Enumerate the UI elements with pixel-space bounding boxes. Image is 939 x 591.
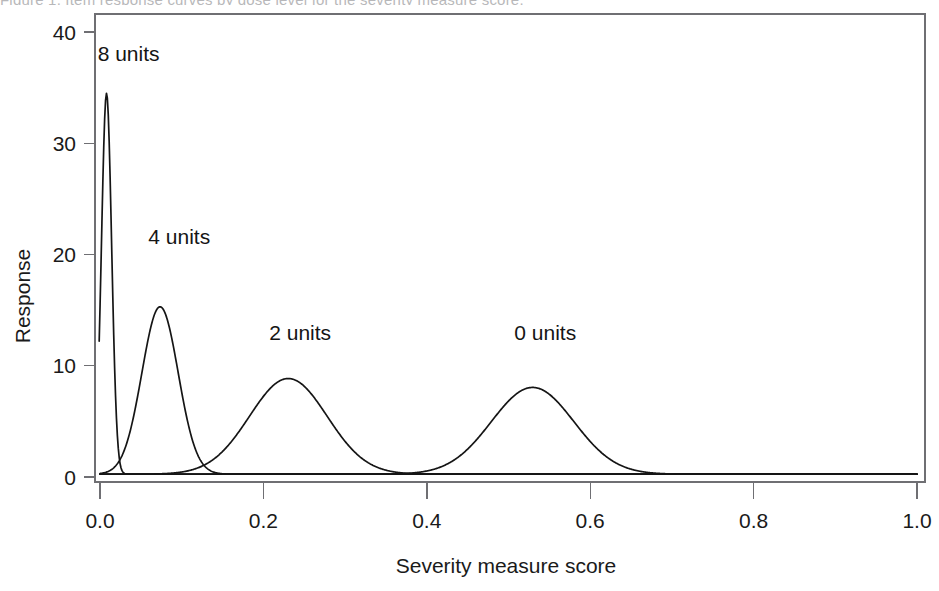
y-axis-title: Response: [11, 249, 34, 344]
x-tick-label: 0.8: [739, 509, 768, 532]
series-label: 2 units: [269, 321, 331, 344]
y-tick-label: 10: [53, 354, 76, 377]
y-tick-label: 20: [53, 243, 76, 266]
x-axis-title: Severity measure score: [396, 554, 617, 577]
y-tick-label: 30: [53, 132, 76, 155]
figure-caption-sliver: Figure 1. Item response curves by dose l…: [0, 0, 939, 5]
x-tick-label: 0.0: [85, 509, 114, 532]
series-label: 8 units: [98, 42, 160, 65]
y-tick-label: 40: [53, 21, 76, 44]
y-tick-label: 0: [64, 466, 76, 489]
chart-background: [0, 0, 939, 591]
x-tick-label: 0.6: [576, 509, 605, 532]
x-tick-label: 0.2: [249, 509, 278, 532]
x-tick-label: 1.0: [902, 509, 931, 532]
series-label: 4 units: [148, 225, 210, 248]
x-tick-label: 0.4: [412, 509, 442, 532]
response-curves-chart: 010203040 0.00.20.40.60.81.0 8 units4 un…: [0, 0, 939, 591]
series-label: 0 units: [514, 321, 576, 344]
figure-container: Figure 1. Item response curves by dose l…: [0, 0, 939, 591]
